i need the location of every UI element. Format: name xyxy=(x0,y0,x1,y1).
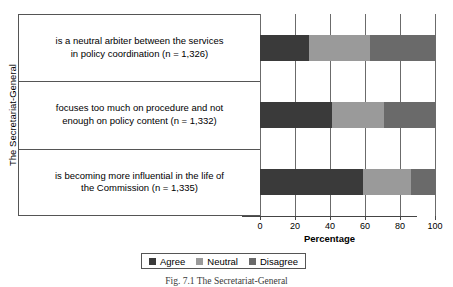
x-axis-tick xyxy=(400,216,401,220)
category-label: is a neutral arbiter between the service… xyxy=(50,35,230,60)
bar-segment-disagree xyxy=(411,169,436,195)
plot-area: The Secretariat-General is a neutral arb… xyxy=(18,14,435,216)
bar-segment-neutral xyxy=(309,35,370,61)
category-label-line: the Commission (n = 1,335) xyxy=(55,182,224,195)
legend-label: Neutral xyxy=(207,256,238,267)
bar-segment-disagree xyxy=(370,35,435,61)
category-row: is a neutral arbiter between the service… xyxy=(19,14,260,81)
x-axis-tick xyxy=(365,216,366,220)
stacked-bar xyxy=(260,35,435,61)
legend-swatch-icon xyxy=(149,258,156,265)
legend-label: Disagree xyxy=(260,256,298,267)
category-separator xyxy=(18,149,260,150)
bar-segment-neutral xyxy=(332,102,385,128)
x-axis-tick-label: 80 xyxy=(385,221,415,232)
legend-swatch-icon xyxy=(249,258,256,265)
x-axis-tick xyxy=(330,216,331,220)
category-label-line: in policy coordination (n = 1,326) xyxy=(56,48,224,61)
bar-segment-agree xyxy=(260,169,363,195)
bar-segment-agree xyxy=(260,102,332,128)
figure-caption: Fig. 7.1 The Secretariat-General xyxy=(0,275,453,287)
x-axis-tick xyxy=(435,216,436,220)
legend-item-agree[interactable]: Agree xyxy=(149,256,185,267)
stacked-bar xyxy=(260,102,435,128)
category-label-line: enough on policy content (n = 1,332) xyxy=(56,115,223,128)
x-axis-tick xyxy=(295,216,296,220)
x-axis-tick-label: 0 xyxy=(245,221,275,232)
legend-swatch-icon xyxy=(196,258,203,265)
category-label-line: focuses too much on procedure and not xyxy=(56,102,223,115)
legend-item-disagree[interactable]: Disagree xyxy=(249,256,298,267)
bar-segment-neutral xyxy=(363,169,410,195)
stacked-bar xyxy=(260,169,435,195)
legend-label: Agree xyxy=(160,256,185,267)
x-axis-tick-label: 20 xyxy=(280,221,310,232)
x-axis-tick-label: 40 xyxy=(315,221,345,232)
x-axis-tick-label: 100 xyxy=(420,221,450,232)
bar-segment-agree xyxy=(260,35,309,61)
category-label-line: is a neutral arbiter between the service… xyxy=(56,35,224,48)
category-label: is becoming more influential in the life… xyxy=(49,170,230,195)
category-row: focuses too much on procedure and noteno… xyxy=(19,81,260,148)
category-label: focuses too much on procedure and noteno… xyxy=(50,102,229,127)
bar-segment-disagree xyxy=(384,102,435,128)
figure-container: The Secretariat-General is a neutral arb… xyxy=(0,0,453,287)
gridline xyxy=(435,14,436,216)
x-axis-title: Percentage xyxy=(242,233,417,245)
category-row: is becoming more influential in the life… xyxy=(19,149,260,216)
x-axis-tick-label: 60 xyxy=(350,221,380,232)
category-label-line: is becoming more influential in the life… xyxy=(55,170,224,183)
x-axis-tick xyxy=(260,216,261,220)
chart-legend: AgreeNeutralDisagree xyxy=(141,253,306,269)
category-separator xyxy=(18,81,260,82)
legend-item-neutral[interactable]: Neutral xyxy=(196,256,238,267)
bars-area xyxy=(260,14,435,216)
